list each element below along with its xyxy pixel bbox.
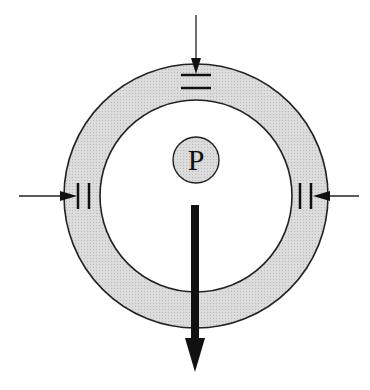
- center-point-p: P: [173, 137, 219, 183]
- center-label: P: [188, 143, 205, 176]
- ring-force-diagram: P: [0, 0, 370, 390]
